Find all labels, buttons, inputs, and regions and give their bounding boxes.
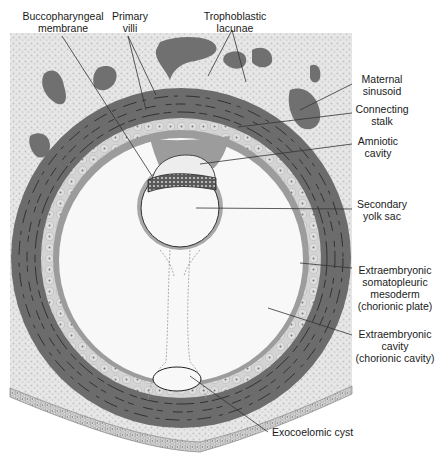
label-trophoblastic-lacunae: Trophoblastic lacunae (195, 10, 275, 34)
label-maternal-sinusoid: Maternal sinusoid (352, 73, 412, 97)
label-secondary-yolk-sac: Secondary yolk sac (352, 198, 412, 222)
label-chorionic-plate: Extraembryonic somatopleuric mesoderm (c… (352, 264, 438, 312)
label-buccopharyngeal-membrane: Buccopharyngeal membrane (18, 10, 108, 34)
blastocyst-diagram (0, 0, 446, 460)
label-exocoelomic-cyst: Exocoelomic cyst (272, 426, 353, 438)
label-connecting-stalk: Connecting stalk (352, 103, 412, 127)
label-primary-villi: Primary villi (105, 10, 155, 34)
label-chorionic-cavity: Extraembryonic cavity (chorionic cavity) (352, 328, 438, 364)
label-amniotic-cavity: Amniotic cavity (352, 135, 404, 159)
